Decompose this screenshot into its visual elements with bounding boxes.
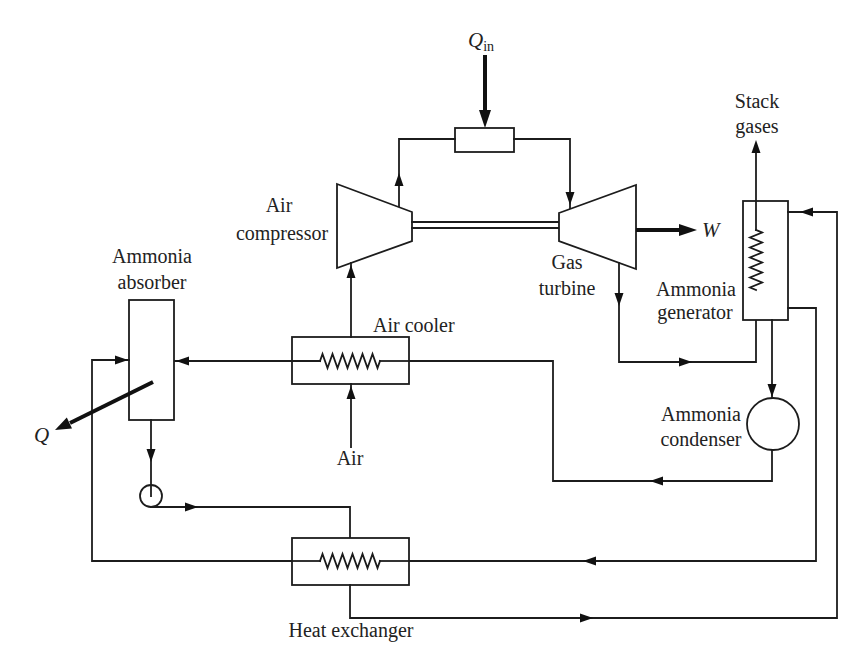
stack-gases-label-line2: gases [735, 115, 779, 138]
flow-arrow-up-icon [752, 140, 761, 153]
gas-turbine-label-line1: Gas [551, 251, 582, 273]
heat-input-subscript: in [483, 39, 494, 54]
flow-arrow-right-icon [679, 358, 692, 367]
heat-input-label: Qin [468, 28, 494, 54]
ammonia-absorber-label-line2: absorber [118, 271, 187, 293]
compressed-air-line [399, 139, 455, 207]
heat-rejected-arrow-icon [55, 418, 72, 430]
ammonia-condenser: Ammonia condenser [660, 398, 799, 450]
flow-arrow-left-icon [650, 477, 663, 486]
ammonia-absorber: Ammonia absorber [112, 245, 192, 420]
flow-arrow-right-icon [580, 614, 593, 623]
heat-rejected-label: Q [34, 423, 49, 447]
air-cooler: Air cooler [292, 314, 455, 384]
flow-arrow-up-icon [395, 173, 404, 186]
heat-input: Qin [468, 28, 494, 128]
shaft [412, 222, 559, 228]
ammonia-condenser-shape [747, 398, 799, 450]
heat-exchanger: Heat exchanger [289, 538, 414, 642]
work-output: W [636, 218, 722, 242]
air-compressor-label-line2: compressor [236, 222, 329, 245]
flow-arrow-down-icon [615, 293, 624, 306]
heat-input-symbol: Q [468, 28, 483, 52]
air-compressor-shape [337, 184, 412, 268]
flow-arrow-up-icon [347, 386, 356, 399]
stack-gases-label-line1: Stack [735, 90, 779, 112]
ammonia-condenser-label-line1: Ammonia [661, 403, 741, 425]
work-output-label: W [702, 218, 722, 242]
gas-turbine-label-line2: turbine [539, 277, 596, 299]
air-inlet: Air [337, 384, 364, 469]
air-cooler-label: Air cooler [373, 314, 455, 336]
flow-arrow-right-icon [115, 356, 128, 365]
air-compressor: Air compressor [236, 184, 412, 268]
combustor [455, 128, 514, 152]
flow-arrow-up-icon [347, 265, 356, 278]
ammonia-absorption-gas-turbine-diagram: Qin Air compressor Gas turbine W [0, 0, 865, 666]
air-compressor-label-line1: Air [266, 194, 293, 216]
ammonia-absorber-shape [129, 300, 174, 420]
ammonia-generator-label-line2: generator [657, 301, 733, 324]
air-inlet-label: Air [337, 447, 364, 469]
flow-arrow-down-icon [566, 192, 575, 205]
gas-turbine: Gas turbine [539, 185, 636, 299]
pump-outlet-line [151, 507, 350, 538]
flow-arrow-down-icon [768, 384, 777, 397]
ammonia-condenser-label-line2: condenser [660, 428, 741, 450]
heat-input-arrow-icon [479, 110, 491, 128]
hot-gas-line [514, 139, 570, 209]
ammonia-generator: Ammonia generator [656, 201, 788, 324]
weak-solution-return-line [92, 360, 320, 561]
heat-exchanger-label: Heat exchanger [289, 619, 414, 642]
flow-arrow-left-icon [800, 208, 813, 217]
ammonia-absorber-label-line1: Ammonia [112, 245, 192, 267]
flow-arrow-left-icon [176, 357, 189, 366]
flow-arrow-left-icon [583, 557, 596, 566]
ammonia-generator-shape [743, 201, 788, 320]
ammonia-generator-label-line1: Ammonia [656, 278, 736, 300]
flow-arrow-down-icon [147, 449, 156, 462]
work-output-arrow-icon [679, 224, 697, 236]
flow-arrow-right-icon [185, 503, 198, 512]
